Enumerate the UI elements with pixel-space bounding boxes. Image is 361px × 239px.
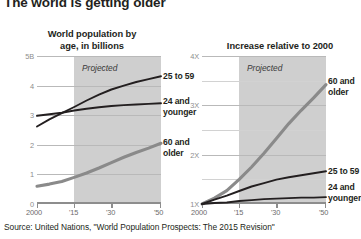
y-label-3: 3	[6, 111, 34, 120]
y-label-2: 2	[6, 141, 34, 150]
x-label-2000: 2000	[26, 208, 42, 217]
chart-panel-increase: Increase relative to 2000	[186, 0, 357, 215]
x-label-15-increase: '15	[234, 208, 243, 217]
chart-title-line-2: age, in billions	[60, 41, 124, 51]
source-note: Source: United Nations, "World Populatio…	[4, 222, 275, 232]
projected-label-population: Projected	[82, 63, 117, 73]
y-label-1: 1	[6, 170, 34, 179]
line-24-and-younger	[37, 103, 161, 116]
series-label-24-and-younger-increase: 24 andyounger	[328, 182, 361, 203]
chart-title-population: World population by age, in billions	[26, 29, 158, 52]
x-label-30-increase: '30	[271, 208, 280, 217]
series-lines-increase	[202, 56, 326, 204]
y-label-2x: 2X	[174, 151, 199, 160]
plot-area-increase	[202, 56, 326, 204]
series-lines-population	[37, 56, 161, 204]
y-label-3x: 3X	[174, 101, 199, 110]
y-label-4: 4	[6, 82, 34, 91]
chart-title-line-1: World population by	[48, 29, 137, 39]
y-label-4x: 4X	[174, 52, 199, 61]
x-label-2000-increase: 2000	[191, 208, 207, 217]
x-label-50-increase: '50	[319, 208, 328, 217]
series-label-25-to-59-increase: 25 to 59	[328, 166, 359, 177]
chart-panel-population: World population by age, in billions	[0, 0, 186, 215]
x-label-50: '50	[154, 208, 163, 217]
line-60-and-older	[37, 143, 161, 186]
line-25-to-59	[37, 76, 161, 126]
chart-title-increase: Increase relative to 2000	[200, 41, 360, 53]
y-label-5b: 5B	[6, 52, 34, 61]
line-60-and-older-increase	[202, 85, 326, 204]
x-label-15: '15	[69, 208, 78, 217]
x-label-30: '30	[106, 208, 115, 217]
series-label-60-and-older-increase: 60 andolder	[328, 76, 355, 97]
plot-area-population	[37, 56, 161, 204]
projected-label-increase: Projected	[247, 63, 282, 73]
